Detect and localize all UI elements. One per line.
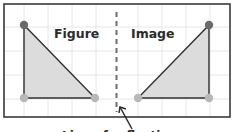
image-vertex-bottom-right <box>205 94 213 102</box>
figure-vertex-top <box>20 21 28 29</box>
figure-vertex-bottom-left <box>20 94 28 102</box>
image-vertex-top <box>205 21 213 29</box>
reflection-diagram: Figure Image Line of reflection <box>0 0 233 132</box>
arrow-icon <box>119 107 132 129</box>
caption: Line of reflection <box>62 129 177 132</box>
image-label: Image <box>131 26 175 41</box>
image-vertex-bottom-left <box>134 94 142 102</box>
diagram-canvas: Figure Image Line of reflection <box>0 0 233 132</box>
figure-vertex-bottom-right <box>91 94 99 102</box>
figure-label: Figure <box>54 26 99 41</box>
